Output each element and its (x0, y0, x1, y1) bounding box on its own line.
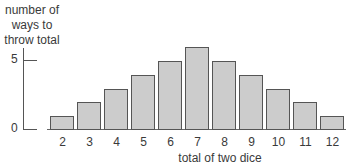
x-tick-label: 9 (238, 135, 265, 149)
x-tick-label: 5 (130, 135, 157, 149)
bar-8 (212, 61, 236, 130)
bar-2 (50, 116, 74, 130)
x-tick-label: 8 (211, 135, 238, 149)
bar-10 (266, 89, 290, 130)
bar-5 (131, 75, 155, 130)
y-axis-label: number of ways to throw total (0, 3, 64, 48)
bar-7 (185, 47, 209, 130)
y-axis-label-line-1: number of (0, 3, 64, 18)
bar-3 (77, 102, 101, 130)
y-tick-label: 0 (11, 121, 18, 135)
y-axis-label-line-3: throw total (0, 33, 64, 48)
y-tick-mark (23, 129, 37, 130)
x-tick-label: 3 (76, 135, 103, 149)
x-tick-label: 12 (319, 135, 346, 149)
x-tick-label: 6 (157, 135, 184, 149)
bar-9 (239, 75, 263, 130)
x-tick-label: 4 (103, 135, 130, 149)
bar-6 (158, 61, 182, 130)
bar-12 (320, 116, 344, 130)
bar-11 (293, 102, 317, 130)
y-axis-label-line-2: ways to (0, 18, 64, 33)
x-axis-label: total of two dice (120, 151, 320, 165)
x-tick-label: 11 (292, 135, 319, 149)
y-tick-label: 5 (11, 52, 18, 66)
x-tick-label: 7 (184, 135, 211, 149)
y-tick-mark (23, 60, 37, 61)
x-tick-label: 2 (49, 135, 76, 149)
x-tick-label: 10 (265, 135, 292, 149)
bar-4 (104, 89, 128, 130)
